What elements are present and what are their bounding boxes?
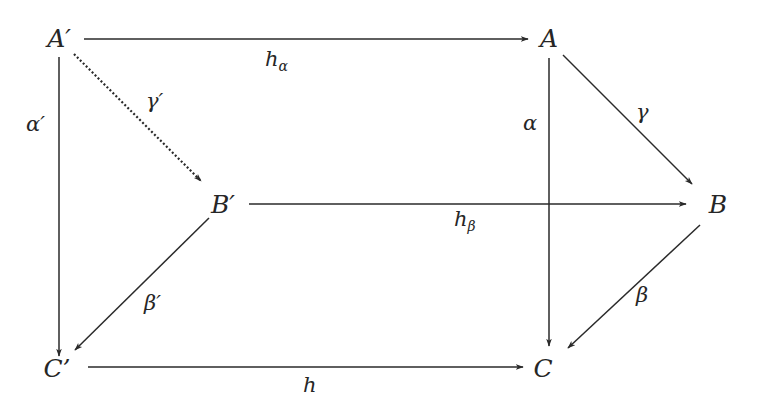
node-b: B bbox=[708, 190, 727, 219]
label-beta: β bbox=[635, 283, 648, 307]
node-a: A bbox=[538, 24, 558, 53]
label-gamma-prime: γ′ bbox=[146, 89, 164, 113]
arrow-beta-prime bbox=[75, 218, 209, 350]
arrow-beta bbox=[568, 225, 700, 348]
commutative-diagram: A′ A B′ B C’ C hα γ′ α′ γ α hβ β′ β h bbox=[0, 0, 760, 415]
arrow-gamma bbox=[563, 55, 692, 184]
node-c: C bbox=[533, 354, 552, 383]
node-b-prime: B′ bbox=[210, 190, 235, 219]
label-h-alpha-sub: α bbox=[279, 58, 289, 74]
label-gamma: γ bbox=[636, 100, 649, 124]
node-c-prime: C’ bbox=[43, 354, 70, 383]
node-a-prime: A′ bbox=[45, 24, 71, 53]
label-h-beta-base: h bbox=[454, 207, 468, 231]
label-h-alpha-base: h bbox=[265, 47, 279, 71]
label-beta-prime: β′ bbox=[143, 291, 161, 315]
label-h-alpha: hα bbox=[265, 47, 289, 74]
label-h: h bbox=[303, 373, 317, 397]
arrow-gamma-prime bbox=[74, 54, 201, 181]
label-alpha: α bbox=[523, 111, 537, 135]
label-alpha-prime: α′ bbox=[26, 112, 45, 136]
label-h-beta-sub: β bbox=[467, 218, 476, 234]
label-h-beta: hβ bbox=[454, 207, 476, 234]
